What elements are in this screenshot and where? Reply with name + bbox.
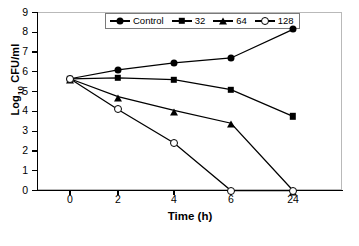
legend-item[interactable]: 32 [172, 16, 206, 26]
x-axis-title: Time (h) [37, 210, 343, 222]
legend-line-swatch [213, 20, 233, 21]
x-axis-tick-label: 4 [154, 194, 194, 205]
filled-circle-marker-icon [117, 17, 124, 24]
legend-label: 32 [195, 16, 206, 26]
x-axis-tick-label: 24 [273, 194, 313, 205]
y-axis-title-rest: CFU/ml [9, 44, 21, 86]
y-axis-tick [32, 12, 37, 13]
legend-line-swatch [255, 20, 275, 21]
filled-square-marker-icon [178, 18, 184, 24]
y-axis-tick [32, 32, 37, 33]
y-axis-tick [32, 170, 37, 171]
y-axis-tick-label: 2 [0, 145, 28, 155]
x-axis-tick-label: 0 [50, 194, 90, 205]
legend-line-swatch [110, 20, 130, 21]
y-axis-tick [32, 131, 37, 132]
legend-item[interactable]: Control [110, 16, 164, 26]
y-axis-title: Log10 CFU/ml [9, 25, 24, 135]
legend-label: Control [133, 16, 164, 26]
chart-figure: 0123456789024624 Log10 CFU/ml Time (h) C… [0, 0, 359, 246]
chart-legend: Control3264128 [105, 13, 300, 29]
x-axis-line [37, 190, 343, 191]
y-axis-tick-label: 9 [0, 7, 28, 17]
y-axis-tick-label: 1 [0, 165, 28, 175]
filled-triangle-marker-icon [219, 17, 227, 24]
legend-label: 128 [278, 16, 294, 26]
legend-line-swatch [172, 20, 192, 21]
y-axis-tick [32, 150, 37, 151]
legend-label: 64 [236, 16, 247, 26]
legend-item[interactable]: 64 [213, 16, 247, 26]
y-axis-line [37, 12, 38, 191]
y-axis-tick [32, 111, 37, 112]
x-axis-tick-label: 6 [211, 194, 251, 205]
y-axis-title-subscript: 10 [16, 86, 25, 95]
y-axis-tick [32, 91, 37, 92]
open-circle-marker-icon [261, 17, 269, 25]
y-axis-tick [32, 71, 37, 72]
y-axis-tick [32, 190, 37, 191]
plot-area [37, 12, 342, 190]
x-axis-tick-label: 2 [98, 194, 138, 205]
legend-item[interactable]: 128 [255, 16, 294, 26]
y-axis-tick [32, 51, 37, 52]
y-axis-title-base: Log [9, 95, 21, 115]
y-axis-tick-label: 0 [0, 185, 28, 195]
